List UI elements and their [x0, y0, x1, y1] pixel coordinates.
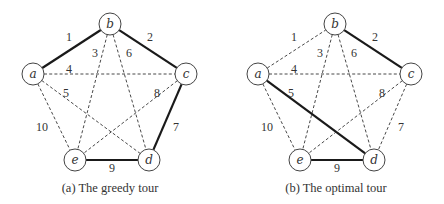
node-label: c — [408, 67, 415, 81]
edge-c-e — [84, 81, 178, 154]
node-label: a — [254, 67, 261, 81]
node-d: d — [138, 149, 160, 171]
node-label: c — [183, 67, 190, 81]
edge-weight-a-d: 5 — [63, 86, 69, 100]
edge-weight-a-c: 4 — [66, 62, 72, 76]
nodes: abcde — [22, 13, 197, 171]
edge-weight-b-c: 2 — [372, 30, 378, 44]
edge-weight-a-c: 4 — [291, 62, 297, 76]
edge-weight-b-d: 6 — [351, 46, 357, 60]
caption-optimal: (b) The optimal tour — [285, 181, 387, 195]
edge-weight-a-b: 1 — [66, 30, 72, 44]
edge-weight-b-e: 3 — [317, 46, 323, 60]
node-e: e — [64, 149, 86, 171]
node-a: a — [247, 63, 269, 85]
node-b: b — [324, 13, 346, 35]
nodes: abcde — [247, 13, 422, 171]
edge-weight-a-e: 10 — [261, 120, 273, 134]
node-c: c — [175, 63, 197, 85]
edge-weight-c-e: 8 — [379, 86, 385, 100]
edge-weight-a-d: 5 — [288, 86, 294, 100]
node-d: d — [363, 149, 385, 171]
tsp-figure: abcde 12345678910 (a) The greedy tour ab… — [0, 0, 444, 204]
edges — [38, 30, 182, 160]
edge-weight-b-c: 2 — [147, 30, 153, 44]
edge-weight-c-d: 7 — [173, 120, 179, 134]
caption-greedy: (a) The greedy tour — [62, 181, 159, 195]
node-label: d — [370, 153, 378, 167]
edge-c-e — [309, 81, 403, 154]
edges — [263, 30, 407, 160]
edge-weight-b-e: 3 — [92, 46, 98, 60]
edge-a-d — [42, 81, 140, 154]
node-label: b — [106, 17, 114, 31]
node-label: e — [71, 153, 78, 167]
edge-a-d-tour — [267, 81, 365, 154]
edge-weight-b-d: 6 — [126, 46, 132, 60]
edge-weight-c-d: 7 — [398, 120, 404, 134]
edge-weight-a-b: 1 — [291, 30, 297, 44]
node-label: b — [331, 17, 339, 31]
node-label: a — [29, 67, 36, 81]
node-a: a — [22, 63, 44, 85]
node-b: b — [99, 13, 121, 35]
edge-weight-c-e: 8 — [154, 86, 160, 100]
greedy-tour-diagram: abcde 12345678910 (a) The greedy tour — [22, 13, 197, 195]
node-c: c — [400, 63, 422, 85]
optimal-tour-diagram: abcde 12345678910 (b) The optimal tour — [247, 13, 422, 195]
edge-weight-d-e: 9 — [109, 161, 115, 175]
edge-weight-a-e: 10 — [36, 120, 48, 134]
node-label: e — [296, 153, 303, 167]
edge-weight-d-e: 9 — [334, 161, 340, 175]
node-e: e — [289, 149, 311, 171]
node-label: d — [145, 153, 153, 167]
